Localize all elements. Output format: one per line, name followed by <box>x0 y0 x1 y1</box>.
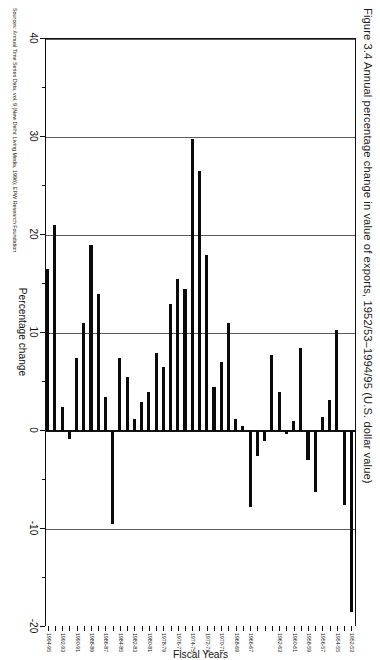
bar <box>97 294 100 431</box>
value-tick-label: 20 <box>28 228 39 239</box>
value-tick-minor <box>42 87 45 88</box>
value-tick-minor <box>42 381 45 382</box>
category-tick <box>55 626 56 631</box>
category-tick <box>265 626 266 631</box>
category-tick <box>105 626 106 631</box>
value-tick-label: 0 <box>28 427 39 433</box>
bar <box>111 431 114 524</box>
value-tick-label: 40 <box>28 32 39 43</box>
source-note: Sources: Annual Time Series Data, vol. 9… <box>12 8 18 252</box>
category-tick-label: 1992-93 <box>60 633 66 652</box>
category-tick-label: 1958-59 <box>306 633 312 652</box>
bar <box>126 377 129 431</box>
category-tick <box>178 626 179 631</box>
bar <box>53 225 56 431</box>
value-tick-label: 10 <box>28 326 39 337</box>
category-tick <box>315 626 316 631</box>
bar <box>256 431 259 456</box>
page-title: Figure 3.4 Annual percentage change in v… <box>362 8 374 484</box>
bar <box>278 392 281 431</box>
bar <box>176 279 179 431</box>
category-tick <box>149 626 150 631</box>
category-tick <box>113 626 114 631</box>
category-tick <box>62 626 63 631</box>
category-tick <box>243 626 244 631</box>
bar <box>234 419 237 431</box>
gridline <box>46 39 355 40</box>
bar <box>249 431 252 507</box>
bar <box>350 431 353 612</box>
value-axis-title: Percentage change <box>17 38 28 626</box>
category-tick-label: 1978-79 <box>161 633 167 652</box>
bar <box>89 245 92 431</box>
bar <box>198 171 201 431</box>
bar <box>118 358 121 432</box>
category-tick-label: 1970-71 <box>219 633 225 652</box>
bar <box>321 417 324 431</box>
figure-page: Figure 3.4 Annual percentage change in v… <box>0 0 380 660</box>
bar <box>46 269 49 431</box>
category-tick <box>77 626 78 631</box>
bar <box>285 431 288 434</box>
category-tick <box>207 626 208 631</box>
category-tick <box>322 626 323 631</box>
category-tick <box>337 626 338 631</box>
category-tick-label: 1980-81 <box>147 633 153 652</box>
category-tick <box>301 626 302 631</box>
category-tick <box>228 626 229 631</box>
value-tick <box>40 332 45 333</box>
value-tick-label: -10 <box>28 521 39 535</box>
category-tick <box>98 626 99 631</box>
category-tick <box>127 626 128 631</box>
category-tick-label: 1956-57 <box>320 633 326 652</box>
category-tick <box>286 626 287 631</box>
category-tick <box>308 626 309 631</box>
value-tick-minor <box>42 479 45 480</box>
category-tick-label: 1952-53 <box>349 633 355 652</box>
bar <box>162 367 165 431</box>
category-tick <box>192 626 193 631</box>
category-tick-label: 1972-73 <box>205 633 211 652</box>
bar <box>75 358 78 432</box>
category-tick <box>257 626 258 631</box>
category-tick-label: 1954-55 <box>335 633 341 652</box>
category-tick-label: 1994-95 <box>46 633 52 652</box>
bar <box>343 431 346 505</box>
category-tick <box>171 626 172 631</box>
bar <box>328 400 331 431</box>
value-tick-label: 30 <box>28 130 39 141</box>
bar <box>270 355 273 431</box>
category-tick <box>294 626 295 631</box>
gridline <box>46 137 355 138</box>
bar <box>299 348 302 431</box>
value-tick <box>40 528 45 529</box>
bar <box>205 255 208 431</box>
value-tick <box>40 430 45 431</box>
category-tick <box>69 626 70 631</box>
category-tick-label: 1974-75 <box>190 633 196 652</box>
category-tick-label: 1982-83 <box>132 633 138 652</box>
category-tick-label: 1976-77 <box>176 633 182 652</box>
value-tick-minor <box>42 185 45 186</box>
gridline <box>46 529 355 530</box>
bar <box>227 323 230 431</box>
category-tick <box>84 626 85 631</box>
value-tick <box>40 136 45 137</box>
category-tick <box>200 626 201 631</box>
bar <box>191 139 194 431</box>
category-tick <box>279 626 280 631</box>
bar <box>241 426 244 431</box>
category-tick-label: 1968-69 <box>234 633 240 652</box>
rotated-figure-frame: Figure 3.4 Annual percentage change in v… <box>0 0 380 660</box>
bar <box>61 407 64 432</box>
category-tick <box>344 626 345 631</box>
category-tick <box>272 626 273 631</box>
value-tick-minor <box>42 283 45 284</box>
category-tick <box>250 626 251 631</box>
bar <box>82 323 85 431</box>
category-axis: 1952-531954-551956-571958-591960-611962-… <box>45 626 356 660</box>
bar <box>212 387 215 431</box>
category-tick-label: 1988-89 <box>89 633 95 652</box>
category-tick <box>221 626 222 631</box>
bar <box>147 392 150 431</box>
